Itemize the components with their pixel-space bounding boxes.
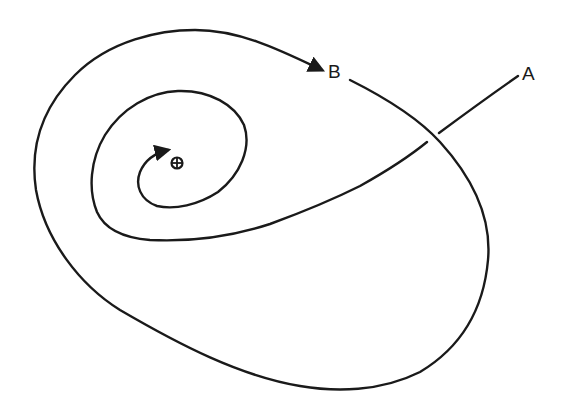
- point-a-label: A: [522, 64, 535, 83]
- point-b-label: B: [328, 62, 341, 81]
- diagram-canvas: [0, 0, 574, 409]
- path-from-a-spiral: [92, 91, 427, 240]
- path-from-a-segment-1: [439, 76, 518, 133]
- target-point-icon: [172, 158, 183, 169]
- outer-loop-curve: [34, 30, 488, 389]
